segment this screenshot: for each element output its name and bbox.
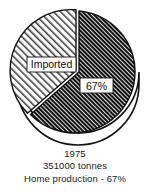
caption-home-production: Home production - 67% — [0, 173, 150, 185]
caption-tonnes: 351000 tonnes — [0, 160, 150, 172]
chart-caption: 1975 351000 tonnes Home production - 67% — [0, 148, 150, 185]
imported-label-text: Imported — [31, 58, 73, 70]
home-percent-label-group: 67% — [80, 78, 113, 93]
pie-chart-figure: Imported 67% 1975 351000 tonnes Home pro… — [0, 0, 150, 193]
chart-area: Imported 67% — [0, 0, 150, 150]
home-percent-label-text: 67% — [86, 80, 107, 92]
caption-year: 1975 — [0, 148, 150, 160]
imported-label-group: Imported — [27, 57, 76, 72]
pie-chart-svg: Imported 67% — [0, 0, 150, 150]
